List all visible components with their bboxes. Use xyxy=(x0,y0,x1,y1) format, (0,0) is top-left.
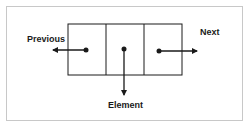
next-label: Next xyxy=(200,28,220,37)
element-label: Element xyxy=(108,101,143,110)
previous-label: Previous xyxy=(27,35,65,44)
element-pointer-arrow xyxy=(122,47,127,96)
next-pointer-arrow xyxy=(157,49,198,54)
previous-pointer-arrow xyxy=(53,48,89,53)
